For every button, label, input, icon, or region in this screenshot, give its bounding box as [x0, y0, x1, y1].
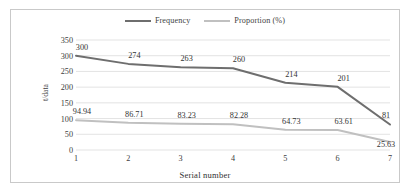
x-axis-tick: 5: [283, 154, 287, 163]
x-axis-tick: 7: [388, 154, 392, 163]
legend-label-frequency: Frequency: [155, 16, 190, 25]
y-axis-tick: 250: [61, 67, 73, 76]
legend-item-frequency: Frequency: [125, 16, 190, 25]
x-axis-tick: 1: [74, 154, 78, 163]
plot-area: 3002742632602142018194.9486.7183.2382.28…: [76, 40, 390, 150]
plot-svg: [76, 40, 390, 150]
y-axis-tick: 350: [61, 36, 73, 45]
y-axis-tick: 0: [69, 146, 73, 155]
legend-line-frequency: [125, 20, 151, 22]
series-line-proportion: [76, 120, 390, 142]
y-axis-tick: 50: [65, 130, 73, 139]
x-axis-tick: 6: [336, 154, 340, 163]
legend-item-proportion: Proportion (%): [204, 16, 285, 25]
chart-legend: Frequency Proportion (%): [11, 16, 399, 25]
x-axis-title: Serial number: [11, 170, 399, 180]
x-axis-tick: 4: [231, 154, 235, 163]
y-axis-tick-labels: 050100150200250300350: [49, 40, 73, 150]
legend-line-proportion: [204, 20, 230, 22]
x-axis-tick: 3: [179, 154, 183, 163]
chart-frame: Frequency Proportion (%) t/data 05010015…: [10, 9, 400, 183]
series-line-frequency: [76, 56, 390, 125]
y-axis-tick: 100: [61, 114, 73, 123]
y-axis-tick: 200: [61, 83, 73, 92]
y-axis-tick: 300: [61, 51, 73, 60]
x-axis-tick: 2: [126, 154, 130, 163]
x-axis-tick-labels: 1234567: [76, 154, 390, 166]
y-axis-tick: 150: [61, 98, 73, 107]
legend-label-proportion: Proportion (%): [234, 16, 285, 25]
